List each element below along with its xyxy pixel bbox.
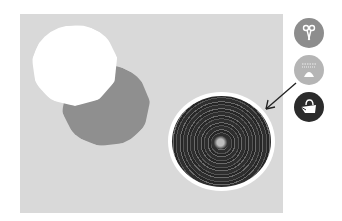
scribble-circle-shape <box>168 92 275 191</box>
paint-bucket-icon <box>298 96 320 118</box>
drawing-canvas[interactable] <box>20 14 283 213</box>
stamp-icon <box>298 59 320 81</box>
stamp-tool-button[interactable] <box>294 55 324 85</box>
scissors-icon <box>298 22 320 44</box>
paint-bucket-tool-button[interactable] <box>294 92 324 122</box>
scissors-tool-button[interactable] <box>294 18 324 48</box>
